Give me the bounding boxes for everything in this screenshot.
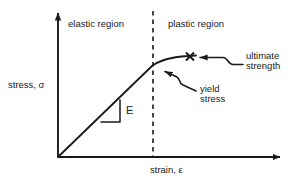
ultimate-strength-leader-line: [200, 58, 243, 65]
x-axis-label: strain, ε: [150, 165, 183, 176]
ultimate-strength-label-line2: strength: [246, 61, 280, 71]
yield-stress-label: yield stress: [200, 84, 225, 105]
ultimate-strength-label: ultimate strength: [246, 51, 280, 72]
diagram-canvas: [0, 0, 297, 185]
elastic-region-label: elastic region: [68, 19, 124, 30]
stress-strain-diagram: stress, σ strain, ε elastic region plast…: [0, 0, 297, 185]
yield-stress-label-line2: stress: [200, 94, 225, 104]
yield-stress-leader-line: [165, 72, 196, 92]
modulus-slope-triangle: [101, 100, 120, 122]
modulus-label: E: [126, 104, 133, 117]
plastic-region-label: plastic region: [168, 19, 224, 30]
y-axis-label: stress, σ: [8, 80, 44, 91]
